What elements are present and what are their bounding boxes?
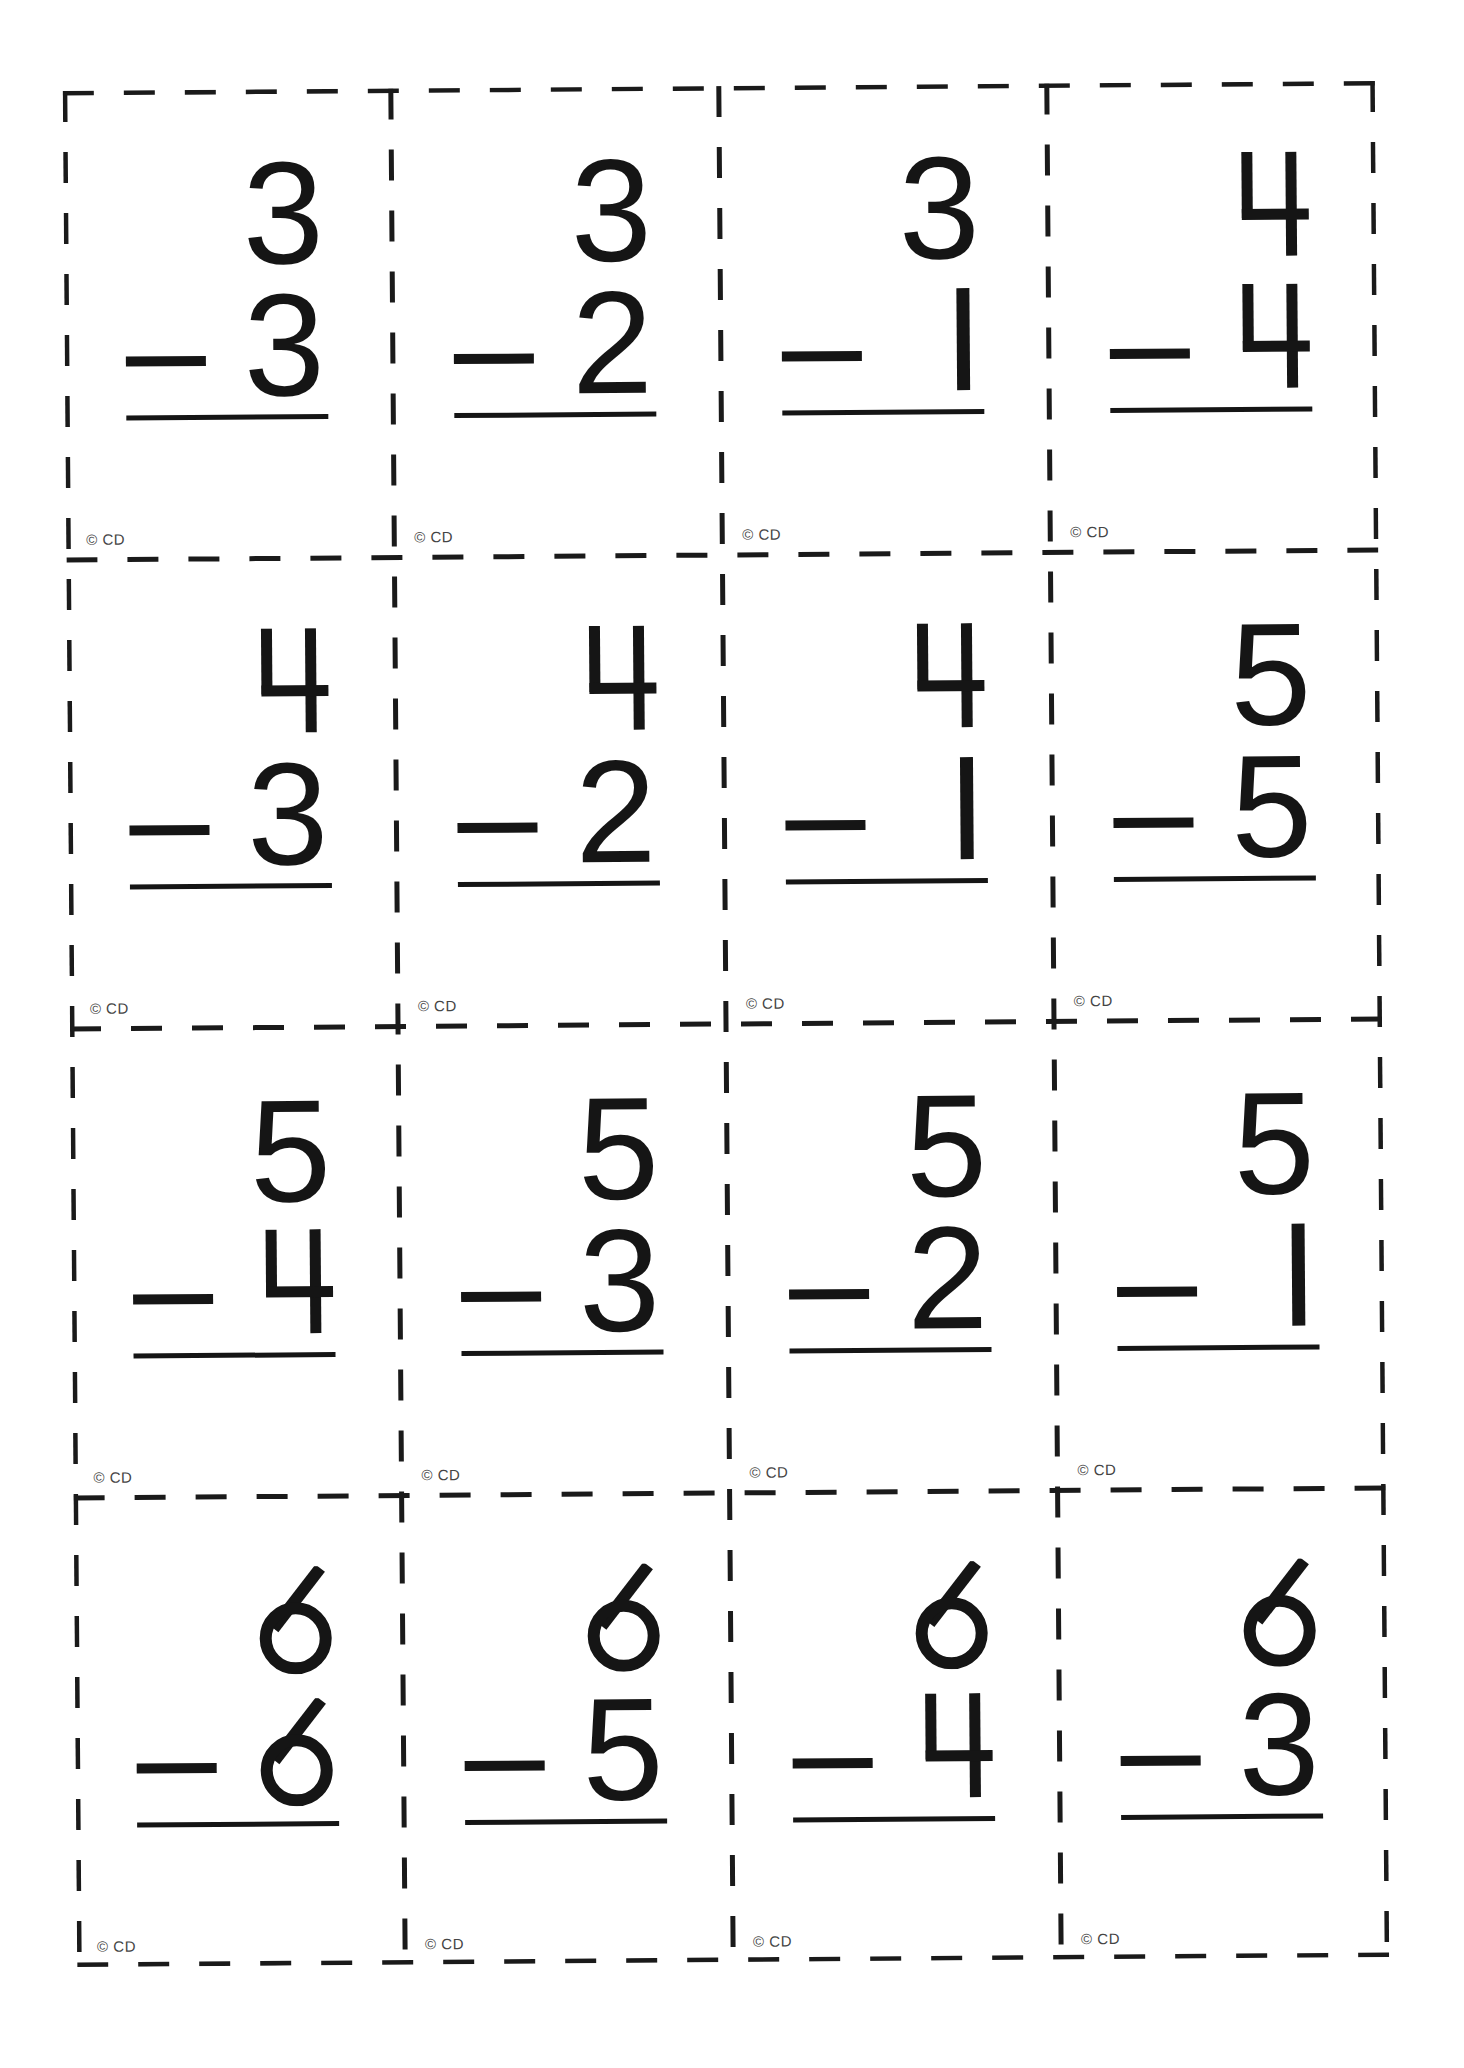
- subtraction-problem: 3: [66, 558, 398, 1030]
- answer-line: [458, 881, 660, 888]
- subtraction-problem: 3 2: [391, 86, 723, 558]
- copyright-label: © CD: [749, 1464, 788, 1481]
- minuend-digit: [1201, 151, 1312, 260]
- minus-sign: [461, 1291, 541, 1302]
- minus-sign: [457, 822, 537, 833]
- subtrahend-digit: 2: [546, 289, 657, 398]
- subtrahend-digit: 5: [1206, 752, 1317, 861]
- minus-sign: [1121, 1755, 1201, 1766]
- svg-text:5: 5: [249, 1097, 331, 1206]
- svg-text:3: 3: [1238, 1690, 1320, 1799]
- copyright-label: © CD: [414, 528, 453, 545]
- subtraction-problem: [730, 1490, 1062, 1962]
- subtraction-problem: 5 2: [726, 1021, 1058, 1493]
- svg-text:2: 2: [575, 757, 657, 866]
- answer-line: [782, 409, 984, 416]
- flash-card-9: 5 © CD: [70, 1027, 402, 1499]
- copyright-label: © CD: [90, 1000, 129, 1017]
- subtrahend-digit: [226, 1229, 337, 1338]
- minus-sign: [785, 820, 865, 831]
- copyright-label: © CD: [97, 1938, 136, 1955]
- minuend-digit: [549, 626, 660, 735]
- flash-card-15: © CD: [730, 1490, 1062, 1962]
- subtrahend-digit: [878, 755, 989, 864]
- card-grid: 3 3 © CD 3 2 © CD 3 © CD: [63, 81, 1389, 1967]
- subtrahend-digit: [229, 1698, 340, 1807]
- subtrahend-digit: 3: [222, 760, 333, 869]
- flash-card-8: 5 5 © CD: [1050, 550, 1382, 1022]
- copyright-label: © CD: [425, 1935, 464, 1952]
- answer-line: [793, 1816, 995, 1823]
- minuend-digit: [556, 1563, 667, 1672]
- minus-sign: [782, 351, 862, 362]
- flash-card-12: 5 © CD: [1054, 1019, 1386, 1491]
- subtrahend-digit: 2: [550, 757, 661, 866]
- subtraction-problem: 5: [402, 1493, 734, 1965]
- minuend-digit: [228, 1566, 339, 1675]
- minuend-digit: 5: [1209, 1089, 1320, 1198]
- minuend-digit: 3: [873, 154, 984, 263]
- minus-sign: [129, 825, 209, 836]
- subtrahend-digit: [885, 1693, 996, 1802]
- subtraction-problem: 3 3: [63, 89, 395, 561]
- copyright-label: © CD: [421, 1466, 460, 1483]
- minus-sign: [137, 1763, 217, 1774]
- subtrahend-digit: [1202, 283, 1313, 392]
- copyright-label: © CD: [742, 526, 781, 543]
- minus-sign: [1113, 817, 1193, 828]
- svg-text:3: 3: [578, 1226, 660, 1335]
- minuend-digit: [877, 623, 988, 732]
- answer-line: [130, 883, 332, 890]
- copyright-label: © CD: [86, 531, 125, 548]
- svg-text:2: 2: [571, 289, 653, 398]
- svg-text:5: 5: [1233, 1089, 1315, 1198]
- flash-card-sheet: 3 3 © CD 3 2 © CD 3 © CD: [63, 81, 1389, 1967]
- svg-text:5: 5: [1231, 752, 1313, 861]
- minuend-digit: 3: [217, 159, 328, 268]
- answer-line: [786, 878, 988, 885]
- flash-card-7: © CD: [722, 552, 1054, 1024]
- answer-line: [465, 1818, 667, 1825]
- answer-line: [789, 1347, 991, 1354]
- svg-text:3: 3: [243, 291, 325, 400]
- subtraction-problem: [1047, 81, 1379, 553]
- copyright-label: © CD: [1081, 1930, 1120, 1947]
- answer-line: [462, 1349, 664, 1356]
- svg-text:3: 3: [247, 760, 329, 869]
- subtraction-problem: 3: [1058, 1488, 1390, 1960]
- minuend-digit: 5: [225, 1097, 336, 1206]
- answer-line: [134, 1352, 336, 1359]
- copyright-label: © CD: [418, 997, 457, 1014]
- flash-card-2: 3 2 © CD: [391, 86, 723, 558]
- flash-card-16: 3 © CD: [1058, 1488, 1390, 1960]
- answer-line: [1114, 875, 1316, 882]
- svg-text:5: 5: [905, 1092, 987, 1201]
- minus-sign: [465, 1760, 545, 1771]
- flash-card-13: © CD: [74, 1496, 406, 1968]
- subtraction-problem: 3: [719, 84, 1051, 556]
- svg-text:5: 5: [1230, 620, 1312, 729]
- copyright-label: © CD: [753, 1933, 792, 1950]
- answer-line: [1117, 1344, 1319, 1351]
- svg-text:5: 5: [577, 1094, 659, 1203]
- svg-text:3: 3: [242, 159, 324, 268]
- subtraction-problem: [74, 1496, 406, 1968]
- answer-line: [126, 414, 328, 421]
- svg-text:3: 3: [898, 154, 980, 263]
- copyright-label: © CD: [746, 995, 785, 1012]
- subtrahend-digit: 3: [1213, 1690, 1324, 1799]
- minus-sign: [1110, 348, 1190, 359]
- minuend-digit: [1212, 1558, 1323, 1667]
- minus-sign: [789, 1289, 869, 1300]
- answer-line: [454, 412, 656, 419]
- subtraction-problem: 5 5: [1050, 550, 1382, 1022]
- subtraction-problem: 5 3: [398, 1024, 730, 1496]
- answer-line: [1110, 406, 1312, 413]
- answer-line: [1121, 1813, 1323, 1820]
- minuend-digit: [221, 628, 332, 737]
- subtrahend-digit: 3: [218, 291, 329, 400]
- minus-sign: [126, 356, 206, 367]
- subtrahend-digit: [1210, 1221, 1321, 1330]
- copyright-label: © CD: [1070, 523, 1109, 540]
- answer-line: [137, 1821, 339, 1828]
